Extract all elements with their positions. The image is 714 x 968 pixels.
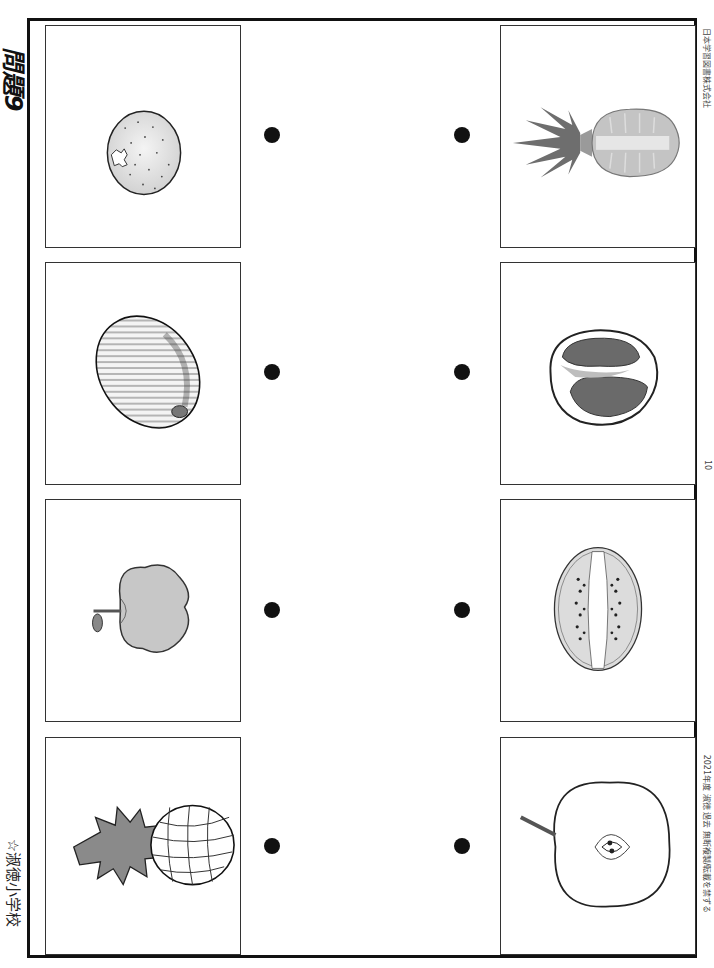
match-dot-left-3[interactable] [264, 602, 280, 618]
orange-icon [46, 26, 240, 247]
school-name: ☆淑徳小学校 [2, 800, 26, 965]
page-number: 10 [700, 445, 714, 485]
match-dot-right-4[interactable] [454, 838, 470, 854]
match-dot-right-3[interactable] [454, 602, 470, 618]
card-kiwi-cut [500, 499, 696, 722]
kiwi-cut-icon [501, 500, 695, 721]
apple-cut-icon [501, 738, 695, 954]
match-dot-left-1[interactable] [264, 127, 280, 143]
publisher-text: 日本学習図書株式会社 [700, 0, 714, 135]
match-dot-left-4[interactable] [264, 838, 280, 854]
card-apple [45, 499, 241, 722]
card-orange [45, 25, 241, 248]
pineapple-cut-icon [501, 26, 695, 247]
pineapple-icon [46, 738, 240, 954]
match-dot-right-1[interactable] [454, 127, 470, 143]
card-pineapple [45, 737, 241, 955]
match-dot-right-2[interactable] [454, 364, 470, 380]
card-grapefruit-cut [500, 262, 696, 485]
match-dot-left-2[interactable] [264, 364, 280, 380]
copyright-text: 2021年度 淑徳 過去 無断複製/転載を禁ずる [700, 700, 714, 968]
page-title: 問題9 [2, 14, 28, 144]
apple-icon [46, 500, 240, 721]
card-pineapple-cut [500, 25, 696, 248]
card-apple-cut [500, 737, 696, 955]
grapefruit-cut-icon [501, 263, 695, 484]
card-melon [45, 262, 241, 485]
melon-icon [46, 263, 240, 484]
